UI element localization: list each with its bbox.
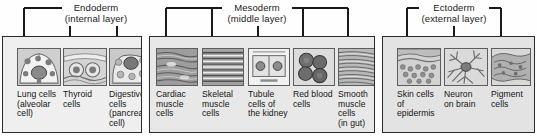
digestive-pancreatic-cell-micrograph <box>109 48 142 86</box>
kidney-tubule-cell-micrograph <box>248 48 290 86</box>
germ-layer-sublabel: (internal layer) <box>40 13 152 24</box>
germ-layer-label-ectoderm: Ectoderm (external layer) <box>397 2 511 24</box>
skin-epidermis-micrograph <box>397 48 441 86</box>
thyroid-cell-micrograph <box>63 48 107 86</box>
cell-caption: Thyroid cells <box>63 90 113 109</box>
germ-layer-name: Ectoderm <box>397 2 511 13</box>
lung-alveolar-cell-micrograph <box>17 48 61 86</box>
germ-layer-diagram: Endoderm (internal layer) Mesoderm (midd… <box>0 0 537 136</box>
cell-caption: Digestive cells (pancreatic cell) <box>109 90 142 128</box>
germ-layer-name: Endoderm <box>40 2 152 13</box>
panel-ectoderm: Skin cells of epidermis <box>382 36 535 133</box>
cell-caption: Neuron on brain <box>444 90 496 109</box>
red-blood-cell-micrograph <box>293 48 335 86</box>
cell-caption: Cardiac muscle cells <box>156 90 204 119</box>
cardiac-muscle-micrograph <box>156 48 198 86</box>
germ-layer-sublabel: (middle layer) <box>200 13 314 24</box>
neuron-brain-micrograph <box>444 48 488 86</box>
germ-layer-sublabel: (external layer) <box>397 13 511 24</box>
germ-layer-name: Mesoderm <box>200 2 314 13</box>
cell-caption: Smooth muscle cells (in gut) <box>338 90 375 128</box>
panel-mesoderm: Cardiac muscle cells <box>149 36 375 133</box>
smooth-muscle-micrograph <box>338 48 375 86</box>
skeletal-muscle-micrograph <box>202 48 244 86</box>
germ-layer-label-mesoderm: Mesoderm (middle layer) <box>200 2 314 24</box>
cell-caption: Pigment cells <box>491 90 535 109</box>
cell-caption: Skeletal muscle cells <box>202 90 250 119</box>
panel-endoderm: Lung cells (alveolar cell) <box>2 36 142 133</box>
pigment-cell-micrograph <box>491 48 531 86</box>
germ-layer-label-endoderm: Endoderm (internal layer) <box>40 2 152 24</box>
